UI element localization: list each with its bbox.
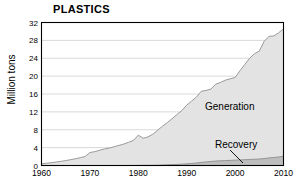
plot-area — [0, 0, 299, 194]
series-label-recovery: Recovery — [215, 139, 257, 150]
plastics-area-chart: PLASTICS Million tons 048121620242832 19… — [0, 0, 299, 194]
series-label-generation: Generation — [205, 101, 254, 112]
